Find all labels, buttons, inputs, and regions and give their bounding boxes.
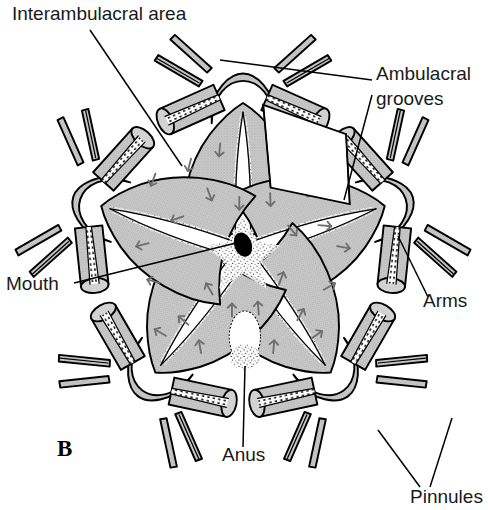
label-arms: Arms xyxy=(423,290,467,311)
label-ambulacral-grooves-line2: grooves xyxy=(376,88,444,109)
label-ambulacral-grooves-line1: Ambulacral xyxy=(376,63,471,84)
label-mouth: Mouth xyxy=(6,273,59,294)
label-anus: Anus xyxy=(222,444,265,465)
label-interambulacral-area: Interambulacral area xyxy=(12,3,187,24)
figure-panel: Interambulacral area Ambulacral grooves … xyxy=(0,0,488,510)
crinoid-oral-surface-diagram: Interambulacral area Ambulacral grooves … xyxy=(0,0,488,510)
anus-structure xyxy=(229,311,260,370)
label-pinnules: Pinnules xyxy=(410,486,483,507)
panel-letter: B xyxy=(57,436,72,461)
